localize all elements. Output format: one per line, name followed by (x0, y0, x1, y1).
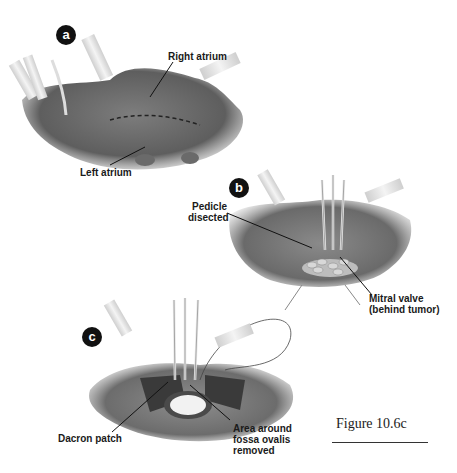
label-behind-tumor: (behind tumor) (369, 304, 440, 315)
label-right-atrium: Right atrium (168, 51, 227, 62)
label-mitral-valve: Mitral valve (369, 293, 423, 304)
label-pedicle: Pedicle (192, 201, 227, 212)
figure-caption: Figure 10.6c (336, 416, 407, 432)
label-area-around: Area around (233, 423, 292, 434)
figure-illustration (0, 0, 457, 473)
surgical-figure: a b c Right atrium Left atrium Pedicle d… (0, 0, 457, 473)
label-removed: removed (233, 445, 275, 456)
label-dacron-patch: Dacron patch (58, 433, 122, 444)
label-disected: disected (188, 212, 229, 223)
panel-a-badge: a (56, 25, 76, 45)
panel-b-badge: b (229, 178, 249, 198)
label-left-atrium: Left atrium (80, 167, 132, 178)
caption-underline (332, 442, 428, 443)
panel-c-badge: c (82, 327, 102, 347)
panel-b-illustration (227, 169, 411, 310)
panel-c-illustration (89, 298, 293, 441)
label-fossa-ovalis: fossa ovalis (233, 434, 290, 445)
